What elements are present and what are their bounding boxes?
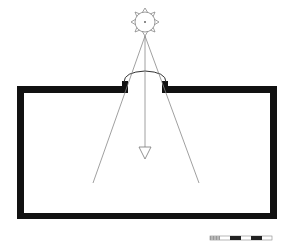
roof-left-segment <box>17 86 127 93</box>
ray-right <box>145 36 199 183</box>
light-rays <box>93 36 199 183</box>
roof-right-segment <box>163 86 277 93</box>
skylight-section-diagram <box>0 0 287 248</box>
arrow-head-icon <box>139 147 151 159</box>
floor-wall <box>17 213 277 219</box>
sun-icon <box>131 8 159 36</box>
ray-left <box>93 36 145 183</box>
right-wall <box>270 86 277 219</box>
scale-bar <box>210 236 272 240</box>
left-wall <box>17 86 24 219</box>
